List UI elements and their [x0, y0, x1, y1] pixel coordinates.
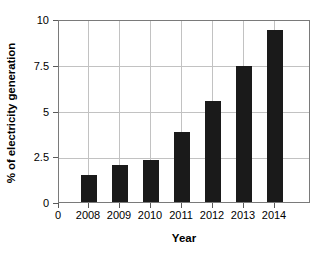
bar-2009	[112, 165, 128, 202]
bar-2011	[174, 132, 190, 202]
x-axis-tick-label: 2010	[138, 209, 162, 221]
x-axis-tick-label: 2012	[200, 209, 224, 221]
bar-2013	[236, 66, 252, 202]
x-axis-line	[58, 202, 310, 203]
y-axis-title: % of electricity generation	[5, 18, 17, 208]
x-axis-tick-mark	[58, 203, 59, 208]
bar-chart: % of electricity generation 10 7.5 5 2.5…	[0, 0, 326, 258]
x-axis-tick-mark	[274, 203, 275, 208]
x-axis-tick-mark	[212, 203, 213, 208]
x-axis-tick-label: 2013	[231, 209, 255, 221]
x-axis-title: Year	[58, 232, 310, 244]
x-axis-tick-label: 0	[55, 209, 61, 221]
x-axis-tick-mark	[88, 203, 89, 208]
x-axis-tick-label: 2011	[169, 209, 193, 221]
x-axis-tick-mark	[119, 203, 120, 208]
plot-area	[58, 20, 310, 203]
x-axis-tick-mark	[181, 203, 182, 208]
y-axis-tick-label: 0	[43, 197, 49, 209]
x-axis-tick-label: 2014	[262, 209, 286, 221]
bar-2010	[143, 160, 159, 202]
bar-2014	[267, 30, 283, 202]
y-axis-tick-label: 7.5	[34, 60, 49, 72]
x-axis-tick-mark	[150, 203, 151, 208]
bar-2008	[81, 175, 97, 202]
bar-2012	[205, 101, 221, 202]
y-axis-line	[58, 20, 59, 203]
x-axis-tick-label: 2009	[107, 209, 131, 221]
y-axis-tick-label: 10	[37, 14, 49, 26]
x-axis-tick-label: 2008	[76, 209, 100, 221]
y-axis-tick-label: 2.5	[34, 151, 49, 163]
x-axis-tick-mark	[243, 203, 244, 208]
bars-layer	[59, 21, 309, 202]
y-axis-tick-label: 5	[43, 106, 49, 118]
